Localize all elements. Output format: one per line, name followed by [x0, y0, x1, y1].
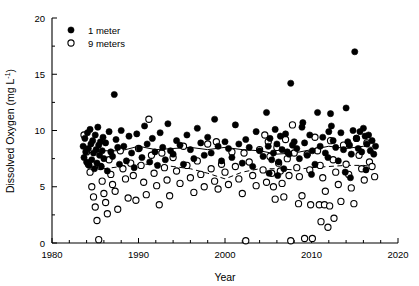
data-point-1-meter — [121, 143, 127, 149]
legend-marker-filled-circle-icon — [68, 27, 74, 33]
data-point-1-meter — [260, 153, 266, 159]
data-point-1-meter — [371, 151, 377, 157]
data-point-9-meters — [327, 203, 333, 209]
data-point-9-meters — [281, 194, 287, 200]
data-point-1-meter — [147, 159, 153, 165]
data-point-1-meter — [165, 121, 171, 127]
data-point-1-meter — [225, 145, 231, 151]
y-axis-title-main: Dissolved Oxygen (mg L — [4, 79, 16, 194]
data-point-1-meter — [294, 145, 300, 151]
x-axis-title: Year — [214, 271, 236, 283]
data-point-9-meters — [369, 163, 375, 169]
data-point-9-meters — [286, 172, 292, 178]
data-point-1-meter — [208, 150, 214, 156]
data-point-1-meter — [350, 127, 356, 133]
data-point-9-meters — [222, 169, 228, 175]
data-point-1-meter — [154, 162, 160, 168]
data-point-1-meter — [328, 123, 334, 129]
data-point-1-meter — [157, 130, 163, 136]
data-point-9-meters — [308, 202, 314, 208]
data-point-1-meter — [215, 143, 221, 149]
data-point-1-meter — [128, 150, 134, 156]
data-point-1-meter — [87, 126, 93, 132]
data-point-1-meter — [250, 163, 256, 169]
data-point-9-meters — [296, 174, 302, 180]
data-point-1-meter — [308, 171, 314, 177]
data-point-9-meters — [92, 204, 98, 210]
data-point-1-meter — [340, 147, 346, 153]
data-point-1-meter — [343, 105, 349, 111]
data-point-1-meter — [327, 111, 333, 117]
data-point-1-meter — [115, 144, 121, 150]
data-point-9-meters — [103, 199, 109, 205]
data-point-1-meter — [116, 161, 122, 167]
data-point-1-meter — [82, 135, 88, 141]
data-point-1-meter — [160, 144, 166, 150]
y-tick-label: 20 — [34, 13, 45, 24]
data-point-1-meter — [335, 158, 341, 164]
x-tick-label: 1980 — [41, 249, 62, 260]
legend-label: 9 meters — [88, 38, 125, 49]
data-point-1-meter — [141, 123, 147, 129]
data-point-9-meters — [239, 190, 245, 196]
data-point-9-meters — [154, 183, 160, 189]
data-point-1-meter — [275, 172, 281, 178]
data-point-9-meters — [253, 183, 259, 189]
x-tick-label: 1990 — [128, 249, 149, 260]
data-point-1-meter — [229, 154, 235, 160]
data-point-1-meter — [90, 138, 96, 144]
data-point-9-meters — [333, 169, 339, 175]
data-point-1-meter — [118, 127, 124, 133]
data-point-1-meter — [269, 157, 275, 163]
data-point-9-meters — [236, 176, 242, 182]
data-point-9-meters — [272, 196, 278, 202]
data-point-9-meters — [289, 122, 295, 128]
data-point-9-meters — [173, 168, 179, 174]
data-point-1-meter — [288, 80, 294, 86]
data-point-1-meter — [304, 152, 310, 158]
data-point-9-meters — [96, 237, 102, 243]
y-tick-label: 15 — [34, 69, 45, 80]
data-point-1-meter — [286, 151, 292, 157]
data-point-9-meters — [151, 170, 157, 176]
data-point-1-meter — [134, 131, 140, 137]
data-point-9-meters — [325, 224, 331, 230]
data-point-9-meters — [94, 217, 100, 223]
data-point-1-meter — [239, 160, 245, 166]
data-point-9-meters — [187, 175, 193, 181]
data-point-1-meter — [162, 157, 168, 163]
data-point-1-meter — [246, 144, 252, 150]
data-point-1-meter — [338, 130, 344, 136]
data-point-1-meter — [144, 141, 150, 147]
data-point-1-meter — [95, 124, 101, 130]
data-point-1-meter — [131, 165, 137, 171]
data-point-1-meter — [92, 132, 98, 138]
data-point-1-meter — [360, 125, 366, 131]
data-point-9-meters — [99, 178, 105, 184]
data-point-1-meter — [109, 153, 115, 159]
data-point-1-meter — [276, 159, 282, 165]
data-point-1-meter — [198, 140, 204, 146]
data-point-1-meter — [253, 129, 259, 135]
data-point-1-meter — [123, 158, 129, 164]
data-point-9-meters — [104, 211, 110, 217]
data-point-9-meters — [156, 202, 162, 208]
data-point-1-meter — [187, 147, 193, 153]
data-point-9-meters — [294, 165, 300, 171]
data-point-1-meter — [274, 141, 280, 147]
data-point-1-meter — [170, 151, 176, 157]
data-point-1-meter — [265, 143, 271, 149]
data-point-9-meters — [301, 235, 307, 241]
data-point-9-meters — [318, 219, 324, 225]
data-point-1-meter — [205, 134, 211, 140]
data-point-9-meters — [351, 201, 357, 207]
y-axis-title-tail: ) — [4, 69, 16, 73]
data-point-1-meter — [281, 166, 287, 172]
data-point-1-meter — [353, 135, 359, 141]
plot-canvas: 19801990200020102020 05101520 1 meter9 m… — [0, 0, 419, 286]
data-point-1-meter — [201, 152, 207, 158]
data-point-9-meters — [295, 201, 301, 207]
data-point-1-meter — [346, 142, 352, 148]
data-point-9-meters — [198, 171, 204, 177]
data-point-9-meters — [109, 181, 115, 187]
